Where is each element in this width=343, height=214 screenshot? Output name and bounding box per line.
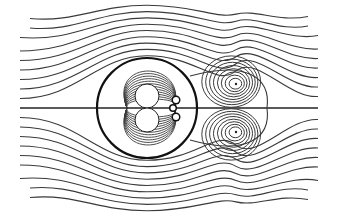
streamline — [20, 18, 318, 38]
singular-point — [171, 106, 176, 111]
inner-lobe — [135, 84, 159, 108]
streamline-plot — [0, 0, 343, 214]
streamline-diagram — [0, 0, 343, 214]
vortex-core — [235, 83, 237, 85]
streamline — [20, 137, 318, 173]
streamline — [30, 5, 308, 19]
vortex-core — [235, 131, 237, 133]
singular-point — [173, 114, 179, 120]
streamline — [30, 197, 308, 211]
streamline — [20, 178, 318, 198]
streamline — [20, 43, 318, 79]
inner-lobe — [135, 108, 159, 132]
singular-point — [173, 97, 179, 103]
